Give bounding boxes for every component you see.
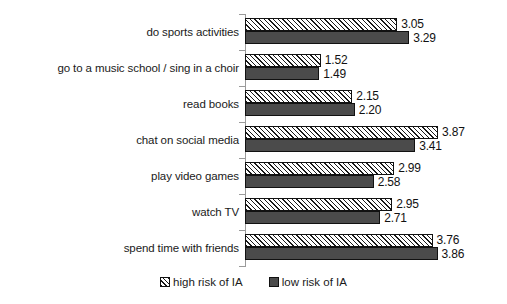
legend-entry-high-risk: high risk of IA <box>160 276 243 288</box>
bar-value-high: 2.99 <box>398 161 421 175</box>
category-label: chat on social media <box>136 134 239 146</box>
category-label: spend time with friends <box>124 242 239 254</box>
hatched-square-icon <box>160 277 170 287</box>
legend-label-low-risk: low risk of IA <box>282 276 347 288</box>
bar-chart: do sports activities 3.05 3.29 go to a m… <box>0 0 507 304</box>
category-row: watch TV 2.95 2.71 <box>0 194 507 230</box>
bar-value-low: 3.29 <box>413 31 436 45</box>
category-row: spend time with friends 3.76 3.86 <box>0 230 507 266</box>
bar-value-low: 3.41 <box>419 139 442 153</box>
bar-low-risk <box>245 211 380 224</box>
bar-low-risk <box>245 31 409 44</box>
bar-value-high: 3.05 <box>401 17 424 31</box>
bar-low-risk <box>245 247 438 260</box>
category-row: chat on social media 3.87 3.41 <box>0 122 507 158</box>
bar-value-high: 2.95 <box>396 197 419 211</box>
bar-value-low: 2.58 <box>378 175 401 189</box>
chart-legend: high risk of IA low risk of IA <box>0 276 507 288</box>
axis-tick <box>239 266 245 267</box>
plot-area: do sports activities 3.05 3.29 go to a m… <box>0 0 507 272</box>
bar-low-risk <box>245 67 319 80</box>
category-row: read books 2.15 2.20 <box>0 86 507 122</box>
bar-low-risk <box>245 103 355 116</box>
category-label: do sports activities <box>146 26 239 38</box>
legend-entry-low-risk: low risk of IA <box>269 276 347 288</box>
bar-value-low: 2.20 <box>359 103 382 117</box>
bar-value-high: 3.87 <box>442 125 465 139</box>
bar-high-risk <box>245 234 433 247</box>
bar-high-risk <box>245 90 352 103</box>
bar-high-risk <box>245 198 392 211</box>
bar-value-low: 3.86 <box>442 247 465 261</box>
bar-value-high: 2.15 <box>356 89 379 103</box>
bar-low-risk <box>245 139 415 152</box>
bar-value-high: 3.76 <box>437 233 460 247</box>
category-label: read books <box>183 98 239 110</box>
category-row: go to a music school / sing in a choir 1… <box>0 50 507 86</box>
legend-label-high-risk: high risk of IA <box>173 276 243 288</box>
category-row: play video games 2.99 2.58 <box>0 158 507 194</box>
bar-low-risk <box>245 175 374 188</box>
bar-high-risk <box>245 126 438 139</box>
bar-high-risk <box>245 162 394 175</box>
category-label: go to a music school / sing in a choir <box>57 62 239 74</box>
category-label: play video games <box>151 170 239 182</box>
bar-high-risk <box>245 54 321 67</box>
category-label: watch TV <box>192 206 239 218</box>
bar-value-high: 1.52 <box>325 53 348 67</box>
bar-high-risk <box>245 18 397 31</box>
bar-value-low: 1.49 <box>323 67 346 81</box>
filled-square-icon <box>269 277 279 287</box>
bar-value-low: 2.71 <box>384 211 407 225</box>
category-row: do sports activities 3.05 3.29 <box>0 14 507 50</box>
